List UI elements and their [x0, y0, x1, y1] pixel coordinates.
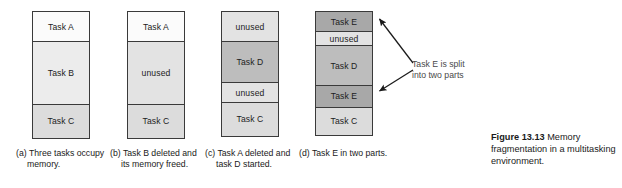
annotation-line-2: into two parts	[412, 70, 504, 81]
memory-column-c: unused Task D unused Task C	[221, 11, 279, 137]
annotation-arrows	[370, 8, 420, 103]
panel-caption-text-d: Task E in two parts.	[312, 148, 387, 158]
memory-column-d: Task E unused Task D Task E Task C	[315, 11, 373, 136]
memory-block: Task D	[315, 45, 373, 87]
memory-column-b: Task A unused Task C	[127, 11, 185, 139]
panel-marker-a: (a)	[16, 148, 27, 158]
memory-block: Task B	[32, 41, 90, 105]
panel-marker-c: (c)	[205, 148, 215, 158]
memory-block: unused	[127, 41, 185, 105]
figure-number: Figure 13.13	[491, 132, 545, 142]
memory-block: Task C	[221, 102, 279, 137]
memory-block: Task E	[315, 85, 373, 108]
panel-marker-b: (b)	[110, 148, 121, 158]
panel-caption-a: (a) Three tasks occupy memory.	[16, 148, 111, 171]
memory-block: Task E	[315, 11, 373, 33]
panel-caption-d: (d) Task E in two parts.	[299, 148, 394, 159]
arrow-to-upper-task-e	[380, 19, 414, 63]
memory-column-a: Task A Task B Task C	[32, 11, 90, 139]
memory-block: Task A	[127, 11, 185, 43]
annotation-line-1: Task E is split	[412, 59, 504, 70]
memory-block: Task D	[221, 41, 279, 83]
memory-block: unused	[221, 82, 279, 104]
memory-block: Task A	[32, 11, 90, 43]
arrow-to-lower-task-e	[380, 70, 414, 91]
figure-caption: Figure 13.13 Memory fragmentation in a m…	[491, 131, 619, 168]
memory-fragmentation-figure: Task A Task B Task C Task A unused Task …	[0, 0, 622, 188]
panel-marker-d: (d)	[299, 148, 310, 158]
panel-caption-text-a: Three tasks occupy memory.	[27, 148, 104, 169]
panel-caption-b: (b) Task B deleted and its memory freed.	[110, 148, 205, 171]
annotation-label: Task E is split into two parts	[412, 59, 504, 81]
memory-block: unused	[221, 11, 279, 43]
panel-caption-c: (c) Task A deleted and task D started.	[205, 148, 300, 171]
panel-caption-text-b: Task B deleted and its memory freed.	[121, 148, 197, 169]
memory-block: Task C	[127, 104, 185, 139]
panel-caption-text-c: Task A deleted and task D started.	[216, 148, 290, 169]
memory-block: Task C	[32, 104, 90, 139]
memory-block: Task C	[315, 107, 373, 136]
